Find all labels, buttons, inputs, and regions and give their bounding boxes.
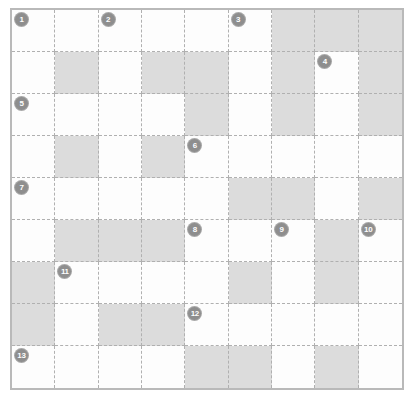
grid-cell-r1-c4[interactable] xyxy=(142,10,185,52)
grid-cell-r4-c9[interactable] xyxy=(359,136,402,178)
grid-cell-r7-c9[interactable] xyxy=(359,262,402,304)
grid-cell-r3-c8[interactable] xyxy=(315,94,358,136)
grid-cell-r2-c9 xyxy=(359,52,402,94)
grid-cell-r2-c7 xyxy=(272,52,315,94)
grid-cell-r2-c1[interactable] xyxy=(12,52,55,94)
grid-cell-r5-c2[interactable] xyxy=(55,178,98,220)
grid-cell-r3-c6[interactable] xyxy=(229,94,272,136)
grid-cell-r8-c7[interactable] xyxy=(272,304,315,346)
clue-number-13: 13 xyxy=(15,349,28,362)
grid-cell-r7-c6 xyxy=(229,262,272,304)
grid-cell-r9-c4[interactable] xyxy=(142,346,185,388)
grid-cell-r6-c2 xyxy=(55,220,98,262)
grid-cell-r7-c1 xyxy=(12,262,55,304)
grid-cell-r9-c5 xyxy=(185,346,228,388)
crossword-page: 12345678910111213 xyxy=(0,0,417,408)
grid-cell-r6-c9[interactable]: 10 xyxy=(359,220,402,262)
grid-cell-r9-c3[interactable] xyxy=(99,346,142,388)
grid-cell-r1-c2[interactable] xyxy=(55,10,98,52)
grid-cell-r2-c5 xyxy=(185,52,228,94)
clue-number-2: 2 xyxy=(102,13,115,26)
grid-cell-r7-c5[interactable] xyxy=(185,262,228,304)
clue-number-4: 4 xyxy=(318,55,331,68)
clue-number-10: 10 xyxy=(362,223,375,236)
clue-number-1: 1 xyxy=(15,13,28,26)
grid-cell-r7-c4[interactable] xyxy=(142,262,185,304)
grid-cell-r8-c9[interactable] xyxy=(359,304,402,346)
grid-cell-r5-c7 xyxy=(272,178,315,220)
grid-cell-r1-c8 xyxy=(315,10,358,52)
grid-cell-r6-c4 xyxy=(142,220,185,262)
grid-cell-r7-c7[interactable] xyxy=(272,262,315,304)
grid-cell-r1-c7 xyxy=(272,10,315,52)
crossword-grid[interactable]: 12345678910111213 xyxy=(12,10,402,388)
grid-cell-r1-c9 xyxy=(359,10,402,52)
grid-cell-r1-c6[interactable]: 3 xyxy=(229,10,272,52)
clue-number-8: 8 xyxy=(188,223,201,236)
grid-cell-r3-c7 xyxy=(272,94,315,136)
grid-cell-r8-c8[interactable] xyxy=(315,304,358,346)
grid-cell-r8-c3 xyxy=(99,304,142,346)
grid-cell-r3-c1[interactable]: 5 xyxy=(12,94,55,136)
grid-cell-r7-c3[interactable] xyxy=(99,262,142,304)
clue-number-7: 7 xyxy=(15,181,28,194)
grid-cell-r5-c1[interactable]: 7 xyxy=(12,178,55,220)
grid-cell-r6-c1[interactable] xyxy=(12,220,55,262)
grid-cell-r3-c9 xyxy=(359,94,402,136)
grid-cell-r4-c6[interactable] xyxy=(229,136,272,178)
grid-cell-r4-c1[interactable] xyxy=(12,136,55,178)
grid-cell-r5-c5[interactable] xyxy=(185,178,228,220)
clue-number-9: 9 xyxy=(275,223,288,236)
grid-cell-r4-c7[interactable] xyxy=(272,136,315,178)
grid-cell-r1-c5[interactable] xyxy=(185,10,228,52)
grid-cell-r2-c3[interactable] xyxy=(99,52,142,94)
grid-cell-r3-c5 xyxy=(185,94,228,136)
grid-cell-r9-c1[interactable]: 13 xyxy=(12,346,55,388)
grid-cell-r8-c1 xyxy=(12,304,55,346)
grid-cell-r5-c8[interactable] xyxy=(315,178,358,220)
grid-cell-r6-c6[interactable] xyxy=(229,220,272,262)
grid-cell-r2-c4 xyxy=(142,52,185,94)
grid-cell-r8-c6[interactable] xyxy=(229,304,272,346)
grid-cell-r4-c3[interactable] xyxy=(99,136,142,178)
grid-cell-r5-c6 xyxy=(229,178,272,220)
grid-cell-r2-c2 xyxy=(55,52,98,94)
grid-cell-r2-c8[interactable]: 4 xyxy=(315,52,358,94)
grid-cell-r4-c8[interactable] xyxy=(315,136,358,178)
grid-cell-r9-c8 xyxy=(315,346,358,388)
grid-cell-r5-c3[interactable] xyxy=(99,178,142,220)
grid-cell-r4-c4 xyxy=(142,136,185,178)
grid-cell-r8-c2[interactable] xyxy=(55,304,98,346)
grid-cell-r9-c9[interactable] xyxy=(359,346,402,388)
grid-cell-r9-c2[interactable] xyxy=(55,346,98,388)
grid-cell-r1-c1[interactable]: 1 xyxy=(12,10,55,52)
grid-cell-r3-c3[interactable] xyxy=(99,94,142,136)
grid-cell-r6-c3 xyxy=(99,220,142,262)
grid-cell-r7-c2[interactable]: 11 xyxy=(55,262,98,304)
clue-number-3: 3 xyxy=(232,13,245,26)
grid-cell-r6-c5[interactable]: 8 xyxy=(185,220,228,262)
clue-number-5: 5 xyxy=(15,97,28,110)
grid-cell-r2-c6[interactable] xyxy=(229,52,272,94)
grid-cell-r3-c4[interactable] xyxy=(142,94,185,136)
grid-cell-r5-c4[interactable] xyxy=(142,178,185,220)
grid-cell-r7-c8 xyxy=(315,262,358,304)
clue-number-6: 6 xyxy=(188,139,201,152)
grid-cell-r8-c4 xyxy=(142,304,185,346)
grid-cell-r4-c2 xyxy=(55,136,98,178)
grid-cell-r6-c7[interactable]: 9 xyxy=(272,220,315,262)
grid-cell-r5-c9 xyxy=(359,178,402,220)
crossword-frame: 12345678910111213 xyxy=(10,8,404,390)
grid-cell-r9-c7[interactable] xyxy=(272,346,315,388)
grid-cell-r1-c3[interactable]: 2 xyxy=(99,10,142,52)
grid-cell-r9-c6 xyxy=(229,346,272,388)
grid-cell-r3-c2[interactable] xyxy=(55,94,98,136)
clue-number-11: 11 xyxy=(58,265,71,278)
grid-cell-r4-c5[interactable]: 6 xyxy=(185,136,228,178)
clue-number-12: 12 xyxy=(188,307,201,320)
grid-cell-r6-c8 xyxy=(315,220,358,262)
grid-cell-r8-c5[interactable]: 12 xyxy=(185,304,228,346)
